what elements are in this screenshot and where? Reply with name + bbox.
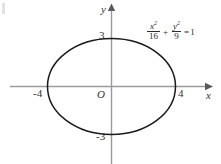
equation-plus-operator: + <box>163 27 168 37</box>
y-tick-label-3: 3 <box>99 30 105 41</box>
x-tick-label-4: 4 <box>178 88 184 99</box>
ellipse-equation: x2 16 + y2 9 = 1 <box>146 22 195 42</box>
scan-artifact-mark <box>2 3 5 14</box>
equation-numerator-y: y2 <box>171 22 182 31</box>
equation-result-value: 1 <box>190 27 195 37</box>
equation-term-y-squared-over-9: y2 9 <box>171 22 182 42</box>
equation-equals-sign: = <box>184 27 189 37</box>
equation-exponent-x: 2 <box>154 20 157 26</box>
equation-numerator-x: x2 <box>148 22 159 31</box>
equation-term-x-squared-over-16: x2 16 <box>147 22 160 42</box>
equation-denominator-9: 9 <box>172 31 181 41</box>
y-axis-arrow-icon <box>108 4 115 12</box>
y-tick-label-negative-3: -3 <box>96 131 105 142</box>
x-tick-label-negative-4: -4 <box>33 88 42 99</box>
origin-label: O <box>97 89 105 100</box>
y-axis-label: y <box>101 4 106 15</box>
x-axis-label: x <box>206 90 211 101</box>
equation-exponent-y: 2 <box>177 20 180 26</box>
equation-denominator-16: 16 <box>147 31 160 41</box>
